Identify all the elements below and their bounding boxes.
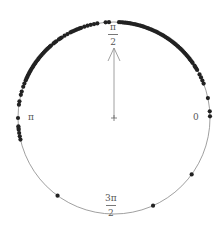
data-point bbox=[197, 72, 201, 76]
data-point bbox=[206, 96, 210, 100]
data-point bbox=[151, 204, 155, 208]
center-cross-icon bbox=[111, 115, 117, 121]
data-point bbox=[208, 114, 212, 118]
label-half-pi: π 2 bbox=[108, 22, 118, 47]
data-point bbox=[190, 172, 194, 176]
data-point bbox=[21, 85, 25, 89]
data-point bbox=[55, 194, 59, 198]
label-half-pi-num: π bbox=[110, 22, 116, 32]
mean-direction-arrow bbox=[108, 48, 120, 118]
label-zero: 0 bbox=[193, 112, 199, 122]
label-half-pi-den: 2 bbox=[110, 37, 116, 47]
data-point bbox=[17, 103, 21, 107]
fraction-bar bbox=[108, 34, 118, 35]
label-three-half-pi-num: 3π bbox=[105, 193, 117, 203]
label-three-half-pi: 3π 2 bbox=[105, 193, 117, 218]
data-point bbox=[19, 93, 23, 97]
data-point bbox=[16, 116, 20, 120]
data-point bbox=[18, 138, 22, 142]
label-three-half-pi-den: 2 bbox=[108, 208, 114, 218]
fraction-bar bbox=[106, 205, 116, 206]
label-pi: π bbox=[28, 112, 34, 122]
data-point bbox=[208, 109, 212, 113]
